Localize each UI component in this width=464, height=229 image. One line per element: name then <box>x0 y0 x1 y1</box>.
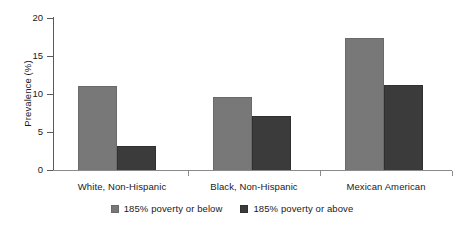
bar-black-non-hispanic-above <box>252 116 291 170</box>
group-label-white-non-hispanic: White, Non-Hispanic <box>56 181 188 192</box>
x-tick-separator-2 <box>320 171 321 176</box>
group-label-mexican-american: Mexican American <box>320 181 452 192</box>
x-tick-separator-1 <box>188 171 189 176</box>
y-tick-label-10: 10 <box>15 89 43 99</box>
chart-legend: 185% poverty or below 185% poverty or ab… <box>0 203 464 214</box>
plot-area <box>53 18 452 170</box>
y-tick-label-0: 0 <box>15 165 43 175</box>
legend-item-below: 185% poverty or below <box>111 203 223 214</box>
group-label-black-non-hispanic: Black, Non-Hispanic <box>188 181 320 192</box>
legend-label-below: 185% poverty or below <box>124 203 223 214</box>
bar-mexican-american-below <box>345 38 384 170</box>
bar-white-non-hispanic-above <box>117 146 156 170</box>
bar-mexican-american-above <box>384 85 423 170</box>
x-axis-line <box>53 170 452 171</box>
y-tick-label-5: 5 <box>15 127 43 137</box>
y-tick-label-20: 20 <box>15 13 43 23</box>
y-tick-label-15: 15 <box>15 51 43 61</box>
bar-chart-figure: Prevalence (%) 20 15 10 5 0 White, Non-H… <box>0 0 464 229</box>
legend-label-above: 185% poverty or above <box>253 203 353 214</box>
legend-swatch-icon-below <box>111 205 119 213</box>
bar-black-non-hispanic-below <box>213 97 252 170</box>
bar-white-non-hispanic-below <box>78 86 117 170</box>
x-tick-end <box>452 171 453 176</box>
legend-item-above: 185% poverty or above <box>240 203 353 214</box>
legend-swatch-icon-above <box>240 205 248 213</box>
